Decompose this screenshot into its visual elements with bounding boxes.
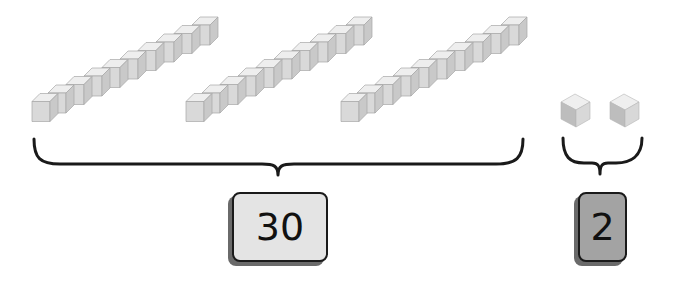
ones-value-text: 2 (590, 205, 614, 249)
unit-cube-2 (610, 94, 639, 127)
tens-brace (34, 139, 523, 175)
unit-cube-1 (561, 94, 590, 127)
tens-value-label: 30 (232, 192, 328, 262)
ones-value-label: 2 (578, 192, 627, 262)
tens-value-text: 30 (256, 205, 304, 249)
ones-brace (563, 138, 642, 174)
